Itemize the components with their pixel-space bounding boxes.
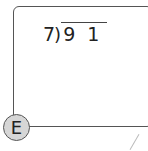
long-division-problem: 7)9 1	[43, 22, 107, 45]
decorative-stroke	[130, 134, 140, 150]
dividend: 9 1	[61, 22, 107, 45]
problem-label: E	[11, 117, 22, 138]
division-bracket: )	[54, 24, 61, 45]
problem-label-badge: E	[3, 114, 30, 141]
